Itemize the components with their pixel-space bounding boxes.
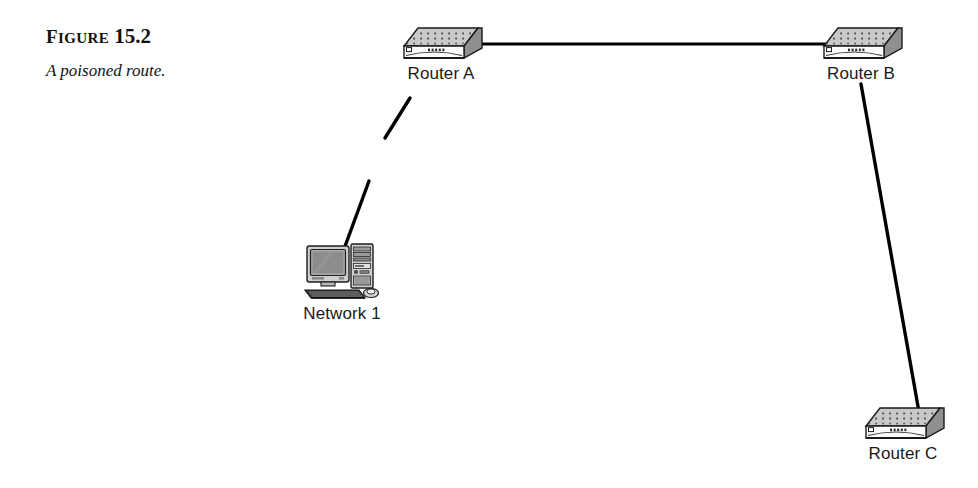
link-router-a-network-1-poisoned: [344, 98, 410, 249]
network-1-label: Network 1: [303, 304, 380, 324]
figure-title: A poisoned route.: [46, 62, 276, 81]
node-router-c[interactable]: Router C: [860, 406, 946, 446]
figure-number: Figure15.2: [46, 26, 276, 47]
figure-number-value: 15.2: [114, 24, 151, 48]
figure-label-initial: F: [46, 26, 58, 47]
node-router-b[interactable]: Router B: [818, 26, 904, 66]
router-icon: [860, 406, 946, 446]
figure-label-rest: igure: [58, 30, 109, 46]
router-c-label: Router C: [869, 444, 938, 464]
workstation-icon: [303, 240, 381, 306]
poisoned-link-upper-segment: [385, 98, 410, 138]
router-icon: [398, 26, 484, 66]
figure-page: Figure15.2 A poisoned route.: [0, 0, 978, 488]
router-a-label: Router A: [408, 64, 475, 84]
router-b-label: Router B: [827, 64, 895, 84]
poisoned-link-lower-segment: [344, 181, 369, 249]
link-router-b-router-c: [861, 84, 919, 412]
router-icon: [818, 26, 904, 66]
figure-caption-block: Figure15.2 A poisoned route.: [46, 26, 276, 81]
figure-label-word: Figure: [46, 30, 109, 46]
node-network-1[interactable]: Network 1: [303, 240, 381, 306]
node-router-a[interactable]: Router A: [398, 26, 484, 66]
